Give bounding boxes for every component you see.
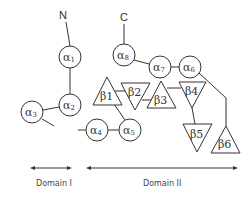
a3-a2-link (43, 107, 59, 110)
strand-b6: β6 (211, 126, 240, 153)
domain1-label: Domain I (36, 179, 72, 188)
c-terminus-label: C (120, 11, 128, 23)
n-terminus-label: N (59, 9, 67, 21)
helix-a6: α6 (179, 56, 201, 78)
svg-text:β6: β6 (218, 138, 231, 151)
svg-text:β3: β3 (154, 94, 167, 107)
a3-tail-link (42, 119, 54, 126)
strand-b2: β2 (121, 83, 150, 110)
b1-a5-link (114, 104, 125, 120)
helix-a2: α2 (59, 94, 81, 116)
helix-a7: α7 (149, 56, 171, 78)
a8-a7-link (134, 60, 149, 64)
strand-b5: β5 (183, 124, 212, 152)
helix-a5: α5 (119, 119, 141, 141)
helix-a4: α4 (86, 119, 108, 141)
svg-text:β5: β5 (190, 128, 203, 141)
svg-text:β1: β1 (100, 90, 113, 103)
b4-b5-link (192, 108, 195, 124)
topology-diagram: N C α1 α2 α3 α4 α5 α6 α7 α8 β1 β2 (0, 0, 252, 199)
strand-b4: β4 (179, 82, 206, 108)
a6-b6-link (199, 73, 226, 126)
svg-text:β2: β2 (128, 86, 141, 99)
svg-text:β4: β4 (185, 85, 198, 98)
n-terminus-line (66, 22, 70, 46)
helix-a1: α1 (59, 46, 81, 68)
strand-b3: β3 (147, 81, 176, 108)
domain2-label: Domain II (143, 179, 181, 188)
helix-a3: α3 (21, 101, 43, 123)
domain2-arrow (86, 166, 238, 170)
helix-a8: α8 (113, 44, 135, 66)
domain1-arrow (30, 166, 72, 170)
